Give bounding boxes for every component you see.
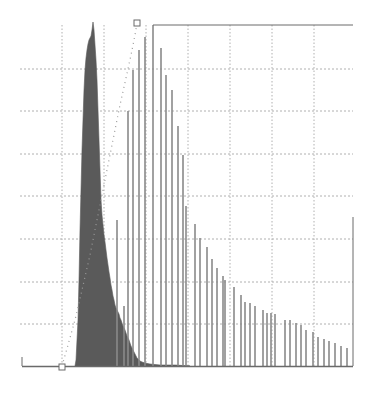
- start-marker: [59, 364, 65, 370]
- histogram-chart: [0, 0, 368, 393]
- reference-lines: [22, 25, 353, 366]
- end-marker: [134, 20, 140, 26]
